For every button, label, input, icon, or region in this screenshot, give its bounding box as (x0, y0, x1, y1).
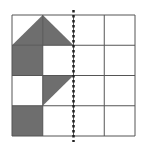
square-row2-col1 (12, 45, 43, 75)
triangle-row3-col2 (43, 76, 74, 106)
square-row4-col1 (12, 106, 43, 136)
triangle-top-right (43, 15, 74, 45)
triangle-top-left (12, 15, 43, 45)
symmetry-grid-diagram (0, 0, 145, 147)
diagram-stage (0, 0, 145, 147)
